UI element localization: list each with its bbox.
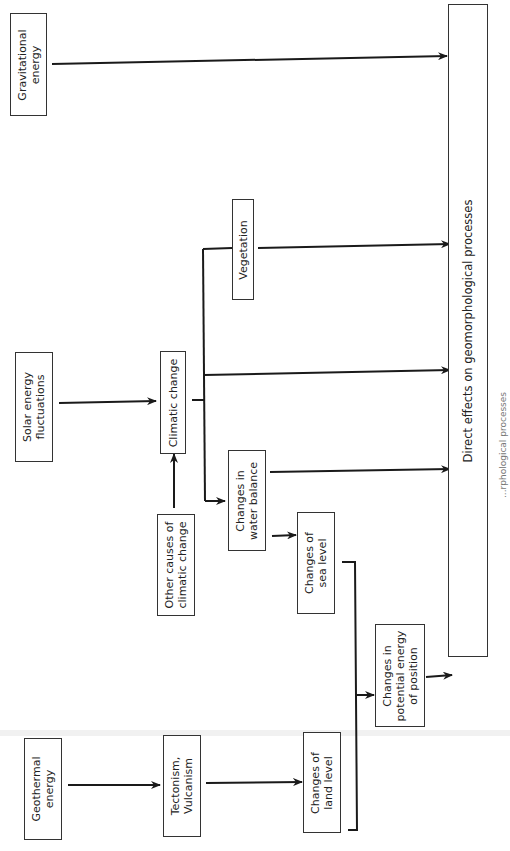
node-label: Vegetation (237, 220, 250, 279)
node-label: Changes in water balance (234, 461, 260, 539)
node-land-level: Changes of land level (303, 732, 341, 833)
node-label: Changes of sea level (303, 532, 329, 594)
node-label: Climatic change (167, 358, 180, 447)
node-climatic-change: Climatic change (160, 351, 186, 454)
node-gravitational-energy: Gravitational energy (10, 13, 47, 116)
node-label: Geothermal energy (30, 757, 56, 822)
node-label: Changes in potential energy of position (381, 630, 420, 721)
figure-caption: ...rphological processes (496, 380, 510, 510)
node-water-balance: Changes in water balance (228, 450, 266, 551)
node-solar-energy: Solar energy fluctuations (15, 352, 53, 462)
node-vegetation: Vegetation (232, 199, 254, 300)
connector-lines (0, 0, 510, 851)
diagram-canvas: Gravitational energy Direct effects on g… (0, 0, 510, 851)
node-direct-effects: Direct effects on geomorphological proce… (448, 4, 488, 657)
node-geothermal-energy: Geothermal energy (24, 738, 62, 840)
node-label: Changes of land level (309, 752, 335, 814)
node-tectonism-vulcanism: Tectonism, Vulcanism (163, 735, 201, 837)
node-label: Direct effects on geomorphological proce… (462, 199, 475, 462)
caption-text: ...rphological processes (498, 392, 508, 498)
node-label: Tectonism, Vulcanism (169, 757, 195, 816)
node-potential-energy: Changes in potential energy of position (375, 624, 425, 727)
node-label: Other causes of climatic change (163, 521, 189, 608)
node-label: Gravitational energy (16, 29, 42, 100)
node-label: Solar energy fluctuations (21, 372, 47, 442)
node-other-causes: Other causes of climatic change (157, 514, 195, 616)
node-sea-level: Changes of sea level (297, 512, 335, 614)
